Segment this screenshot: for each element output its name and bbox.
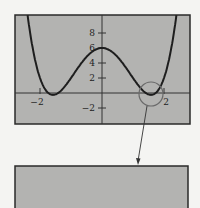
y-tick-label: 2 — [89, 73, 95, 83]
y-tick-label: 4 — [89, 58, 95, 68]
x-tick-label: 2 — [163, 97, 169, 107]
figure: −228642−2 — [0, 0, 200, 208]
zoom-window — [15, 166, 188, 208]
y-tick-label: 8 — [89, 28, 95, 38]
y-tick-label: −2 — [82, 103, 95, 113]
graph-panel: −228642−2 — [15, 15, 190, 124]
x-tick-label: −2 — [30, 97, 43, 107]
